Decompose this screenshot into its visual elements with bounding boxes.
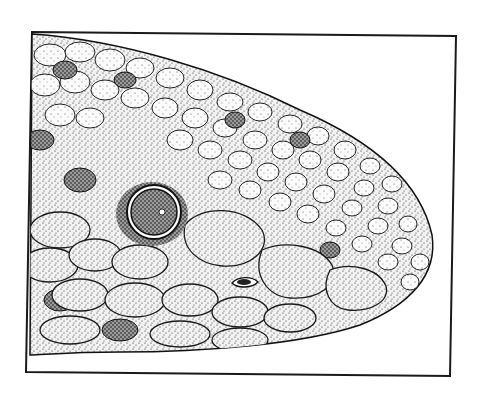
reptile-head-drawing (0, 0, 480, 398)
eye (116, 182, 188, 246)
illustration (0, 0, 480, 398)
